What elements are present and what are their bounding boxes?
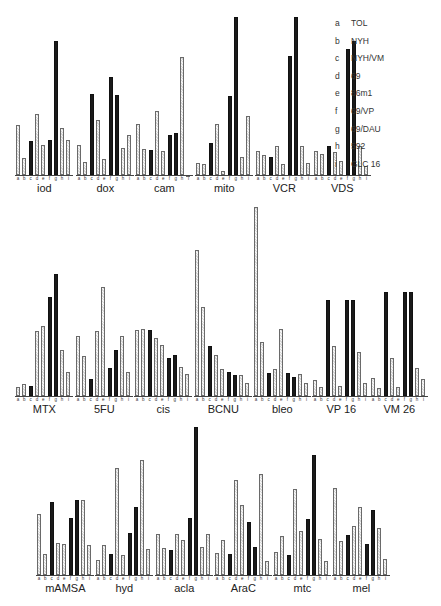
category-letter: c	[286, 576, 291, 581]
category-letter: a	[314, 176, 319, 181]
category-letter: h	[259, 576, 264, 581]
category-letter: b	[339, 576, 344, 581]
bar-h	[179, 367, 183, 396]
category-letter: d	[34, 397, 39, 402]
bar-b	[83, 162, 87, 175]
category-letter: g	[370, 576, 375, 581]
bar-c	[169, 550, 173, 575]
bar-a	[96, 560, 100, 575]
bar-d	[390, 358, 394, 396]
bar-a	[156, 534, 160, 575]
bar-h	[180, 57, 184, 175]
category-letter: h	[358, 176, 363, 181]
category-letter: i	[383, 576, 388, 581]
legend-item: h592	[335, 141, 384, 159]
category-letter: f	[287, 176, 292, 181]
category-letter: c	[49, 576, 54, 581]
category-letter: g	[114, 176, 119, 181]
bar-h	[120, 336, 124, 396]
category-letter: f	[305, 576, 310, 581]
bar-g	[409, 292, 413, 396]
bar-e	[181, 540, 185, 575]
drug-label: mel	[323, 582, 400, 594]
bar-d	[96, 120, 100, 175]
bar-c	[148, 330, 152, 396]
bar-d	[293, 489, 297, 575]
category-letter: g	[291, 397, 296, 402]
category-letter: e	[358, 576, 363, 581]
category-letter: i	[186, 176, 191, 181]
bar-g	[75, 500, 79, 575]
bar-c	[109, 554, 113, 575]
category-letter: a	[215, 576, 220, 581]
category-letter: e	[279, 397, 284, 402]
bar-i	[304, 383, 308, 396]
category-letter: c	[207, 397, 212, 402]
bar-h	[200, 547, 204, 575]
category-letter: e	[338, 397, 343, 402]
category-letter: f	[227, 176, 232, 181]
category-letter: d	[154, 176, 159, 181]
category-letter: d	[55, 576, 60, 581]
bar-c	[29, 386, 33, 396]
bar-i	[185, 374, 189, 396]
bar-c	[89, 379, 93, 396]
bar-g	[292, 377, 296, 396]
bar-e	[41, 145, 45, 175]
bar-g	[351, 300, 355, 396]
category-letter: a	[16, 397, 21, 402]
bar-i	[306, 163, 310, 175]
bar-c	[326, 300, 330, 396]
category-letter: i	[66, 397, 71, 402]
bar-c	[346, 535, 350, 575]
bar-h	[60, 128, 64, 175]
bar-d	[234, 480, 238, 575]
category-letter: g	[172, 397, 177, 402]
category-letter: i	[265, 576, 270, 581]
bar-h	[318, 539, 322, 575]
bar-b	[319, 387, 323, 396]
bar-a	[333, 488, 337, 575]
category-letter: e	[240, 576, 245, 581]
bar-h	[240, 157, 244, 175]
bar-i	[146, 549, 150, 575]
category-letter: a	[156, 576, 161, 581]
bar-h	[300, 146, 304, 175]
category-letter: d	[34, 176, 39, 181]
category-letter: d	[114, 576, 119, 581]
category-letter: e	[102, 176, 107, 181]
bar-g	[115, 95, 119, 175]
bar-g	[173, 355, 177, 396]
bar-a	[76, 336, 80, 396]
bar-i	[66, 372, 70, 396]
category-letter: c	[168, 576, 173, 581]
bar-c	[384, 292, 388, 396]
category-letter: g	[173, 176, 178, 181]
category-letter: f	[364, 576, 369, 581]
bar-b	[320, 154, 324, 175]
category-letter: b	[221, 576, 226, 581]
bar-e	[161, 151, 165, 175]
category-letter: e	[161, 176, 166, 181]
category-letter: a	[333, 576, 338, 581]
bar-f	[109, 77, 113, 175]
category-letter: c	[89, 176, 94, 181]
category-letter: a	[313, 397, 318, 402]
category-letter: g	[252, 576, 257, 581]
bar-h	[60, 350, 64, 396]
bar-h	[81, 500, 85, 575]
bar-a	[195, 250, 199, 396]
bar-b	[82, 356, 86, 396]
bar-i	[126, 372, 130, 396]
category-letter: h	[180, 176, 185, 181]
bar-b	[221, 540, 225, 575]
category-letter: d	[292, 576, 297, 581]
bar-f	[48, 297, 52, 396]
category-letter: h	[60, 176, 65, 181]
bar-g	[54, 41, 58, 175]
category-letter: i	[127, 176, 132, 181]
bar-f	[227, 372, 231, 396]
category-letter: h	[60, 397, 65, 402]
bar-g	[54, 274, 58, 396]
bar-d	[275, 146, 279, 175]
